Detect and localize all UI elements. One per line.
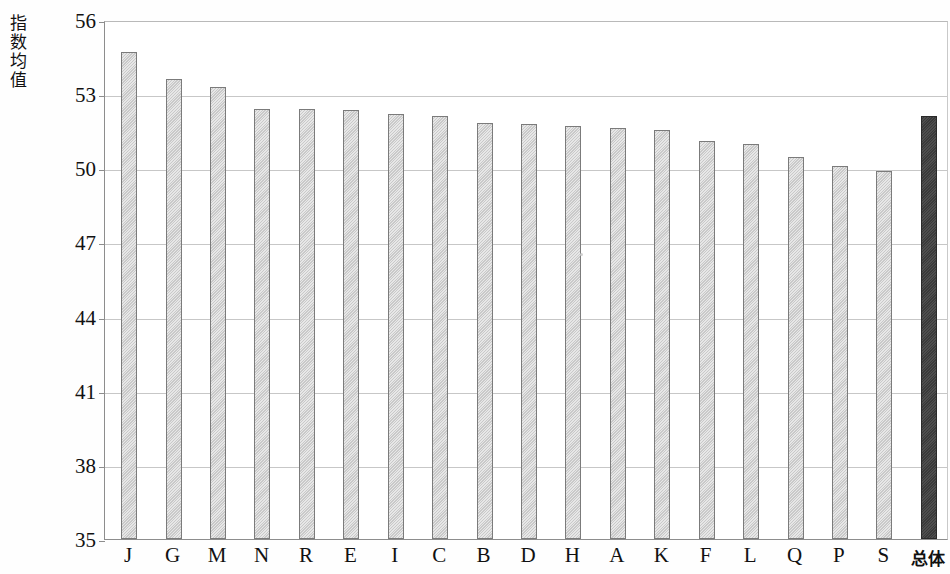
bar-Q (788, 157, 804, 539)
bar-A (610, 128, 626, 539)
x-axis-tick-label-B: B (477, 543, 491, 568)
bar-I (388, 114, 404, 539)
x-axis-tick-label-L: L (744, 543, 757, 568)
bar-P (832, 166, 848, 539)
y-axis-tick-label: 56 (52, 9, 96, 34)
x-axis-tick-label-D: D (520, 543, 535, 568)
bar-series (105, 22, 947, 539)
bar-J (121, 52, 137, 539)
x-axis-tick-label-S: S (878, 543, 890, 568)
x-axis-tick-label-H: H (565, 543, 580, 568)
x-axis-tick-label-K: K (654, 543, 669, 568)
y-axis-tick-label: 38 (52, 453, 96, 478)
y-axis-tick-label: 50 (52, 157, 96, 182)
y-axis-tick-label: 47 (52, 231, 96, 256)
y-axis-tick-label: 44 (52, 305, 96, 330)
x-axis-tick-label-F: F (700, 543, 712, 568)
y-axis-tick-label: 41 (52, 379, 96, 404)
x-axis-tick-label-C: C (432, 543, 446, 568)
x-axis-tick-label-G: G (165, 543, 180, 568)
x-axis-tick-label-P: P (833, 543, 845, 568)
x-axis-tick-label-R: R (299, 543, 313, 568)
x-axis-tick-label-N: N (254, 543, 269, 568)
y-axis-tick-label: 35 (52, 528, 96, 553)
x-axis-tick-label-J: J (124, 543, 132, 568)
bar-G (166, 79, 182, 539)
y-axis-tick-labels: 5653504744413835 (44, 0, 96, 574)
bar-总体 (921, 116, 937, 539)
bar-S (876, 171, 892, 539)
bar-K (654, 130, 670, 539)
x-axis-tick-labels: JGMNREICBDHAKFLQPS总体 (104, 543, 948, 574)
plot-area (104, 21, 948, 540)
bar-F (699, 141, 715, 539)
x-axis-tick-label-E: E (344, 543, 357, 568)
y-axis-tick-label: 53 (52, 83, 96, 108)
y-axis-title: 指数均值 (4, 14, 32, 90)
bar-chart: 指数均值 5653504744413835 JGMNREICBDHAKFLQPS… (0, 0, 950, 574)
bar-N (254, 109, 270, 539)
bar-M (210, 87, 226, 539)
bar-C (432, 116, 448, 539)
bar-R (299, 109, 315, 539)
bar-D (521, 124, 537, 539)
bar-H (565, 126, 581, 539)
x-axis-tick-label-总体: 总体 (911, 545, 945, 570)
bar-E (343, 110, 359, 539)
y-axis-tickmark (99, 541, 105, 542)
x-axis-tick-label-M: M (208, 543, 227, 568)
bar-L (743, 144, 759, 539)
scan-artifact-speck (580, 253, 583, 256)
x-axis-tick-label-I: I (391, 543, 398, 568)
bar-B (477, 123, 493, 539)
x-axis-tick-label-Q: Q (787, 543, 802, 568)
x-axis-tick-label-A: A (609, 543, 624, 568)
